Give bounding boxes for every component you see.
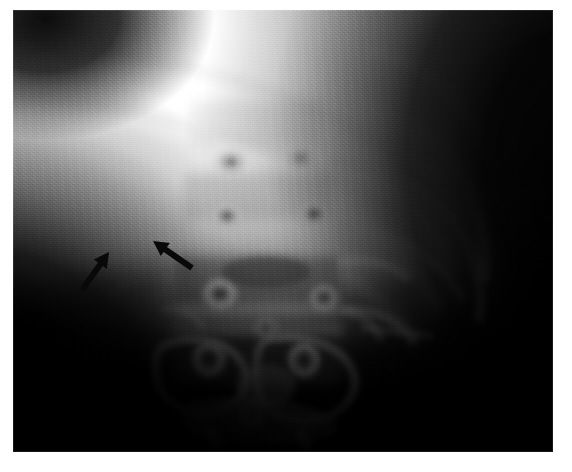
film-grain-texture-2 [13, 10, 553, 452]
figure-page [0, 0, 572, 472]
radiograph-plate [13, 10, 553, 452]
figure-caption [13, 456, 553, 470]
